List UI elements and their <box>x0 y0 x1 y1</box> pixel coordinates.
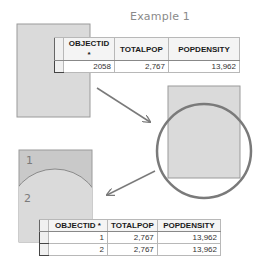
cell-popdensity: 13,962 <box>157 232 220 244</box>
polygon-being-split <box>168 86 240 178</box>
column-header-totalpop[interactable]: TOTALPOP <box>115 38 169 61</box>
arrow-to-split <box>97 88 150 122</box>
row-selector-header[interactable] <box>40 220 49 232</box>
column-header-popdensity[interactable]: POPDENSITY <box>157 220 220 232</box>
polygon-label-2: 2 <box>24 192 31 205</box>
row-selector-header[interactable] <box>55 38 64 61</box>
column-header-popdensity[interactable]: POPDENSITY <box>169 38 240 61</box>
table-row[interactable]: 2 2,767 13,962 <box>40 244 221 256</box>
cell-popdensity: 13,962 <box>157 244 220 256</box>
attribute-table-after: OBJECTID * TOTALPOP POPDENSITY 1 2,767 1… <box>39 219 221 256</box>
row-selector[interactable] <box>40 232 49 244</box>
column-header-objectid[interactable]: OBJECTID * <box>64 38 115 61</box>
cell-objectid: 2 <box>49 244 108 256</box>
cell-objectid: 1 <box>49 232 108 244</box>
attribute-table-before: OBJECTID * TOTALPOP POPDENSITY 2058 2,76… <box>54 37 240 73</box>
cell-totalpop: 2,767 <box>115 61 169 73</box>
cell-popdensity: 13,962 <box>169 61 240 73</box>
polygon-label-1: 1 <box>26 154 33 167</box>
table-row[interactable]: 1 2,767 13,962 <box>40 232 221 244</box>
column-header-objectid[interactable]: OBJECTID * <box>49 220 108 232</box>
cell-objectid: 2058 <box>64 61 115 73</box>
arrow-to-result <box>107 171 155 195</box>
table-row[interactable]: 2058 2,767 13,962 <box>55 61 240 73</box>
row-selector[interactable] <box>55 61 64 73</box>
table-header-row: OBJECTID * TOTALPOP POPDENSITY <box>55 38 240 61</box>
row-selector[interactable] <box>40 244 49 256</box>
cell-totalpop: 2,767 <box>108 244 158 256</box>
column-header-totalpop[interactable]: TOTALPOP <box>108 220 158 232</box>
table-header-row: OBJECTID * TOTALPOP POPDENSITY <box>40 220 221 232</box>
cell-totalpop: 2,767 <box>108 232 158 244</box>
